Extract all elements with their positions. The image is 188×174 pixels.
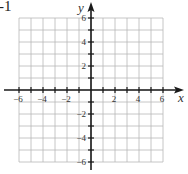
y-tick-label: −4 bbox=[76, 133, 86, 143]
x-tick-label: −2 bbox=[61, 94, 71, 104]
x-tick-label: 4 bbox=[136, 94, 141, 104]
coordinate-grid-plot: −6−4−2246642−2−4−6xy bbox=[0, 0, 188, 174]
x-tick-label: 6 bbox=[160, 94, 165, 104]
y-tick-label: −6 bbox=[76, 157, 86, 167]
x-tick-label: 2 bbox=[112, 94, 117, 104]
problem-number-label: -1 bbox=[0, 0, 12, 15]
x-tick-label: −6 bbox=[13, 94, 23, 104]
coordinate-plane: -1 −6−4−2246642−2−4−6xy bbox=[0, 0, 188, 174]
y-tick-label: 2 bbox=[82, 61, 87, 71]
y-axis-label: y bbox=[76, 0, 84, 15]
x-tick-label: −4 bbox=[37, 94, 47, 104]
y-tick-label: 4 bbox=[82, 37, 87, 47]
y-tick-label: −2 bbox=[76, 109, 86, 119]
x-axis-label: x bbox=[177, 90, 184, 105]
